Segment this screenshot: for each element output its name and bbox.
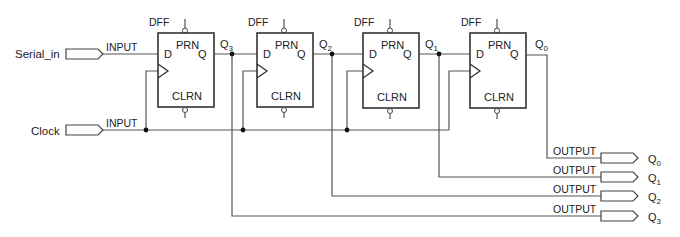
q-label: Q [403,48,412,60]
dff-3[interactable]: DFF PRN D Q CLRN Q1 [354,16,439,119]
output-pin-q3[interactable]: OUTPUT Q3 [553,203,662,226]
clrn-label: CLRN [271,90,301,102]
output-type-label: OUTPUT [553,203,597,215]
prn-label: PRN [488,39,511,51]
clock-label: Clock [31,125,60,137]
dff-1[interactable]: DFF PRN D Q CLRN Q3 [149,16,234,118]
output-type-label: OUTPUT [553,183,597,195]
serial-in-type-label: INPUT [106,41,138,53]
d-label: D [476,48,484,60]
clrn-label: CLRN [377,91,407,103]
d-label: D [164,48,172,60]
output-port-icon [601,153,638,163]
input-pin-clock[interactable]: Clock INPUT [31,117,138,137]
input-port-icon [66,49,103,59]
output-port-icon [601,172,638,182]
dff-2[interactable]: DFF PRN D Q CLRN Q2 [248,16,333,118]
d-label: D [369,48,377,60]
clock-type-label: INPUT [106,117,138,129]
clrn-label: CLRN [484,91,514,103]
input-pin-serial-in[interactable]: Serial_in INPUT [15,41,138,60]
q-label: Q [297,48,306,60]
q-output-label: Q2 [319,38,333,53]
junction-dot [345,128,350,133]
dff-type-label: DFF [354,16,374,28]
clrn-label: CLRN [172,90,202,102]
clear-bubble-icon [495,109,500,114]
q-label: Q [198,48,207,60]
output-type-label: OUTPUT [553,145,597,157]
clear-bubble-icon [282,108,287,113]
prn-label: PRN [381,39,404,51]
q-output-label: Q0 [535,38,549,53]
output-port-icon [601,211,638,221]
schematic-canvas: Serial_in INPUT Clock INPUT [0,0,680,237]
clear-bubble-icon [388,109,393,114]
clear-bubble-icon [183,108,188,113]
dff-type-label: DFF [149,16,169,28]
output-type-label: OUTPUT [553,164,597,176]
q-label: Q [510,48,519,60]
output-name-label: Q3 [648,211,662,226]
q-output-label: Q3 [220,38,234,53]
junction-dot [241,128,246,133]
dff-type-label: DFF [248,16,268,28]
output-name-label: Q1 [648,172,662,187]
dff-type-label: DFF [461,16,481,28]
input-port-icon [66,125,103,135]
output-name-label: Q2 [648,191,662,206]
dff-4[interactable]: DFF PRN D Q CLRN Q0 [461,16,549,119]
output-name-label: Q0 [648,153,662,168]
junction-dot [144,128,149,133]
output-port-icon [601,191,638,201]
q-output-label: Q1 [425,38,439,53]
serial-in-label: Serial_in [15,48,60,60]
d-label: D [263,48,271,60]
prn-label: PRN [275,39,298,51]
prn-label: PRN [176,39,199,51]
